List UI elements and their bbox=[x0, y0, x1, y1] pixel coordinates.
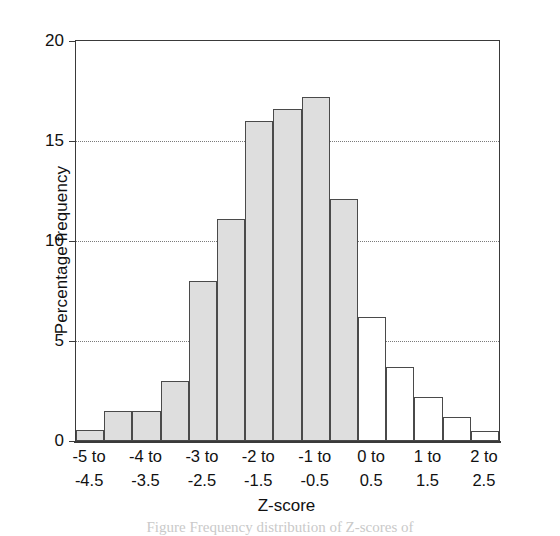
histogram-bar bbox=[104, 411, 132, 441]
y-tick-label-0: 0 bbox=[55, 431, 64, 451]
x-tick-label: 2 to2.5 bbox=[470, 444, 498, 492]
x-tick-label-line2: -1.5 bbox=[242, 468, 275, 492]
x-tick-label: -4 to-3.5 bbox=[129, 444, 162, 492]
x-axis-tick-labels: -5 to-4.5-4 to-3.5-3 to-2.5-2 to-1.5-1 t… bbox=[75, 444, 498, 502]
histogram-bar bbox=[358, 317, 386, 441]
x-tick-label-line1: -2 to bbox=[242, 447, 275, 465]
histogram-bar bbox=[189, 281, 217, 441]
histogram-bar bbox=[330, 199, 358, 441]
y-tick-label-20: 20 bbox=[45, 31, 64, 51]
x-tick-label: -5 to-4.5 bbox=[73, 444, 106, 492]
histogram-bar bbox=[273, 109, 301, 441]
histogram-bar bbox=[132, 411, 160, 441]
x-tick-label: -1 to-0.5 bbox=[298, 444, 331, 492]
x-tick-label-line2: -3.5 bbox=[129, 468, 162, 492]
histogram-bar bbox=[386, 367, 414, 441]
x-tick-label-line1: -1 to bbox=[298, 447, 331, 465]
y-tick-label-5: 5 bbox=[55, 331, 64, 351]
x-tick-label-line1: -5 to bbox=[73, 447, 106, 465]
y-tick-10 bbox=[69, 241, 76, 242]
y-tick-label-10: 10 bbox=[45, 231, 64, 251]
plot-area: 05101520 bbox=[75, 40, 500, 442]
histogram-bar bbox=[217, 219, 245, 441]
y-tick-15 bbox=[69, 141, 76, 142]
histogram-bar bbox=[443, 417, 471, 441]
x-tick-label-line2: 0.5 bbox=[357, 468, 385, 492]
x-tick-label-line2: -4.5 bbox=[73, 468, 106, 492]
x-tick-label-line2: 2.5 bbox=[470, 468, 498, 492]
y-tick-5 bbox=[69, 341, 76, 342]
histogram-bar bbox=[161, 381, 189, 441]
x-tick-label: 1 to1.5 bbox=[414, 444, 442, 492]
x-tick-label-line1: 0 to bbox=[357, 447, 385, 465]
x-tick-label-line1: 2 to bbox=[470, 447, 498, 465]
y-tick-label-15: 15 bbox=[45, 131, 64, 151]
histogram-bar bbox=[245, 121, 273, 441]
histogram-bar bbox=[302, 97, 330, 441]
x-tick-label-line1: -4 to bbox=[129, 447, 162, 465]
x-tick-label-line2: -2.5 bbox=[185, 468, 218, 492]
caption-remnant: Figure Frequency distribution of Z-score… bbox=[0, 519, 560, 536]
x-tick-label-line1: -3 to bbox=[185, 447, 218, 465]
x-tick-label-line1: 1 to bbox=[414, 447, 442, 465]
y-tick-0 bbox=[69, 441, 76, 442]
x-tick-label: -3 to-2.5 bbox=[185, 444, 218, 492]
histogram-bar bbox=[471, 431, 499, 441]
x-tick-label-line2: 1.5 bbox=[414, 468, 442, 492]
y-tick-20 bbox=[69, 41, 76, 42]
x-tick-label: 0 to0.5 bbox=[357, 444, 385, 492]
x-tick-label-line2: -0.5 bbox=[298, 468, 331, 492]
x-axis-title: Z-score bbox=[75, 496, 498, 516]
histogram-bar bbox=[414, 397, 442, 441]
histogram-bar bbox=[76, 430, 104, 441]
x-tick-label: -2 to-1.5 bbox=[242, 444, 275, 492]
